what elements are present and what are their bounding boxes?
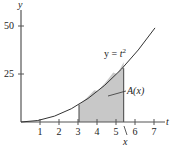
x-marker-pointer — [124, 126, 127, 135]
ytick-label-50: 50 — [4, 20, 14, 31]
xtick-label-3: 3 — [76, 126, 81, 137]
xtick-label-6: 6 — [133, 126, 138, 137]
y-axis-label: y — [17, 0, 23, 10]
xtick-label-5: 5 — [114, 126, 119, 137]
x-axis-label: t — [166, 116, 169, 127]
curve-label: y = t2 — [104, 47, 126, 59]
xtick-label-2: 2 — [57, 126, 62, 137]
xtick-label-7: 7 — [152, 126, 157, 137]
area-under-curve-chart: y t 50 25 1 2 3 4 5 6 7 x y = t2 A(x) — [0, 0, 172, 149]
xtick-label-4: 4 — [95, 126, 100, 137]
x-marker-label: x — [122, 136, 128, 147]
ytick-label-25: 25 — [4, 68, 14, 79]
area-label: A(x) — [126, 85, 145, 97]
xtick-label-1: 1 — [38, 126, 43, 137]
shaded-area-fill — [79, 68, 124, 122]
